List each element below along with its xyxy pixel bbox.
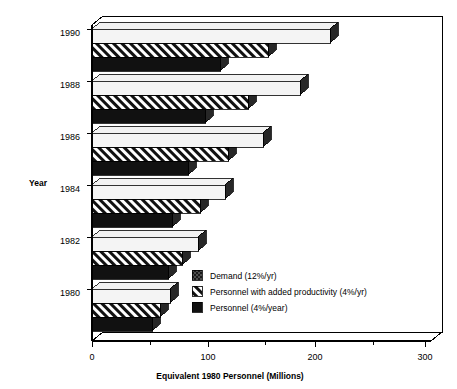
- x-tick-label-200: 200: [307, 352, 322, 362]
- bar-1988-demand: [92, 74, 308, 95]
- bar-1986-demand: [92, 126, 271, 147]
- legend-label-demand: Demand (12%/yr): [210, 271, 277, 281]
- bar-1980-demand: [92, 282, 178, 303]
- y-tick-label-1990: 1990: [60, 28, 80, 38]
- x-tick-label-0: 0: [89, 352, 94, 362]
- bar-1982-demand: [92, 230, 206, 251]
- y-tick-label-1988: 1988: [60, 80, 80, 90]
- y-tick-label-1980: 1980: [60, 288, 80, 298]
- x-tick-label-300: 300: [417, 352, 432, 362]
- chart-container: 1990 1988 1986 1984 1982 1980 Year 0 100…: [0, 0, 457, 389]
- y-tick-label-1982: 1982: [60, 236, 80, 246]
- legend-item-productivity: Personnel with added productivity (4%/yr…: [192, 286, 367, 297]
- y-axis-title: Year: [29, 178, 48, 188]
- gray-checker-swatch: [192, 270, 202, 280]
- legend-label-personnel: Personnel (4%/year): [210, 303, 288, 313]
- bar-chart: 1990 1988 1986 1984 1982 1980 Year 0 100…: [0, 0, 457, 389]
- hatched-swatch: [192, 286, 202, 296]
- bar-1984-demand: [92, 178, 233, 199]
- x-tick-label-100: 100: [200, 352, 215, 362]
- solid-dark-swatch: [192, 302, 202, 312]
- bar-1990-demand: [92, 22, 338, 43]
- x-axis-title: Equivalent 1980 Personnel (Millions): [156, 371, 304, 381]
- y-tick-label-1986: 1986: [60, 132, 80, 142]
- legend-label-productivity: Personnel with added productivity (4%/yr…: [210, 287, 367, 297]
- y-tick-label-1984: 1984: [60, 184, 80, 194]
